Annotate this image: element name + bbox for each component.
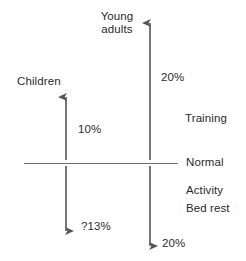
training-label: Training [185,112,227,125]
children-down-percent-label: ?13% [81,220,111,233]
children-label: Children [17,75,61,88]
young-adults-label-line2: adults [101,23,132,35]
young-adults-up-percent-label: 20% [161,71,184,84]
young-adults-down-percent-label: 20% [162,237,185,250]
children-up-percent-label: 10% [78,123,101,136]
young-adults-label: Youngadults [96,10,138,36]
normal-label: Normal [186,156,224,169]
diagram-canvas [0,0,246,261]
young-adults-label-line1: Young [101,10,134,22]
bed-rest-label: Bed rest [186,202,230,215]
bone-mass-adaptation-diagram: Youngadults Children 20% 10% Training No… [0,0,246,261]
activity-label: Activity [186,184,223,197]
